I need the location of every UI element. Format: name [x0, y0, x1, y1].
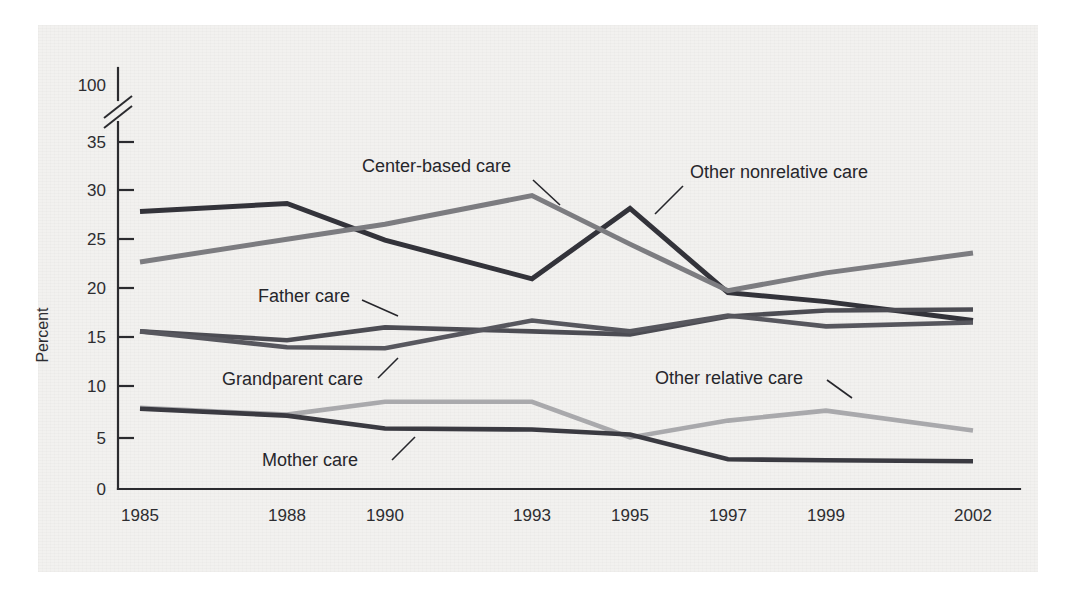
y-tick-label-100: 100	[78, 76, 106, 95]
y-tick-label-15: 15	[87, 328, 106, 347]
annotation-label-other-nonrelative-care: Other nonrelative care	[690, 162, 868, 182]
annotation-label-other-relative-care: Other relative care	[655, 368, 803, 388]
annotation-label-grandparent-care: Grandparent care	[222, 369, 363, 389]
figure-page: 10035302520151050Percent1985198819901993…	[0, 0, 1072, 597]
x-tick-label-1988: 1988	[268, 506, 306, 525]
annotation-label-father-care: Father care	[258, 286, 350, 306]
annotation-leader-other-nonrelative-care	[655, 186, 683, 214]
y-tick-label-5: 5	[97, 429, 106, 448]
x-tick-label-1995: 1995	[611, 506, 649, 525]
line-chart: 10035302520151050Percent1985198819901993…	[0, 0, 1072, 597]
annotation-leader-grandparent-care	[378, 358, 398, 378]
y-tick-label-10: 10	[87, 377, 106, 396]
x-tick-label-1993: 1993	[513, 506, 551, 525]
x-tick-label-1985: 1985	[121, 506, 159, 525]
y-tick-label-20: 20	[87, 279, 106, 298]
series-line-center-based-care	[140, 196, 973, 291]
y-tick-label-30: 30	[87, 181, 106, 200]
annotation-leader-father-care	[362, 300, 398, 316]
y-axis-title: Percent	[34, 307, 51, 363]
x-tick-label-1999: 1999	[807, 506, 845, 525]
annotation-leader-mother-care	[392, 437, 415, 460]
annotation-label-center-based-care: Center-based care	[362, 156, 511, 176]
y-tick-label-35: 35	[87, 133, 106, 152]
annotation-leader-other-relative-care	[827, 380, 852, 398]
y-tick-label-25: 25	[87, 230, 106, 249]
x-tick-label-1997: 1997	[709, 506, 747, 525]
annotation-label-mother-care: Mother care	[262, 450, 358, 470]
x-tick-label-1990: 1990	[366, 506, 404, 525]
y-tick-label-0: 0	[97, 480, 106, 499]
x-tick-label-2002: 2002	[954, 506, 992, 525]
